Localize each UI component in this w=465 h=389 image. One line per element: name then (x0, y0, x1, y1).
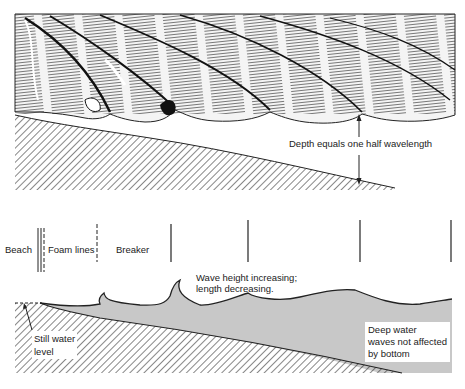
deep-water-label: Deep water waves not affected by bottom (365, 322, 450, 362)
wave-height-line2: length decreasing. (196, 283, 297, 294)
zone-label-breaker: Breaker (116, 244, 149, 255)
still-water-label: Still water level (32, 331, 77, 359)
zone-label-foam-lines: Foam lines (48, 244, 94, 255)
deep-water-line3: by bottom (368, 348, 447, 360)
deep-water-line2: waves not affected (368, 336, 447, 348)
still-water-line2: level (34, 345, 75, 358)
deep-water-line1: Deep water (368, 324, 447, 336)
zone-separators (38, 220, 451, 272)
top-seabed-hatch (15, 115, 395, 190)
top-wave-illustration (15, 14, 455, 123)
still-water-line1: Still water (34, 332, 75, 345)
wave-height-line1: Wave height increasing; (196, 272, 297, 283)
wave-height-annotation: Wave height increasing; length decreasin… (196, 272, 297, 294)
depth-annotation: Depth equals one half wavelength (287, 137, 434, 150)
zone-label-beach: Beach (5, 244, 32, 255)
